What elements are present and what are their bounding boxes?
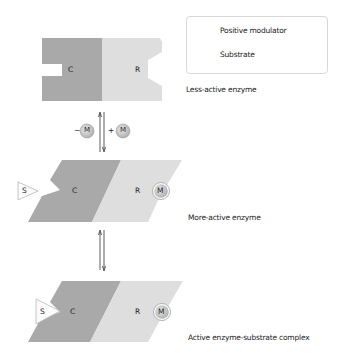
state-label-less-active: Less-active enzyme xyxy=(186,85,256,94)
equilibrium-arrows-1 xyxy=(99,112,106,152)
substrate-label-2: S xyxy=(22,186,27,195)
plus-sign: + xyxy=(108,126,114,135)
catalytic-label-3: C xyxy=(70,307,75,316)
state-label-more-active: More-active enzyme xyxy=(188,213,261,222)
substrate-label-3: S xyxy=(40,307,45,316)
free-substrate xyxy=(18,182,38,200)
equilibrium-arrows-2 xyxy=(99,230,106,271)
regulatory-label-3: R xyxy=(135,307,140,316)
legend-box xyxy=(186,16,328,74)
catalytic-label-2: C xyxy=(72,186,77,195)
modulator-label-2: M xyxy=(157,186,163,195)
minus-sign: − xyxy=(74,126,80,135)
state-label-active-complex: Active enzyme-substrate complex xyxy=(188,333,309,342)
modulator-label-3: M xyxy=(158,307,164,316)
legend-label-positive-modulator: Positive modulator xyxy=(220,26,286,35)
modulator-label-add: M xyxy=(120,126,126,134)
less-active-enzyme xyxy=(42,38,162,101)
regulatory-label-2: R xyxy=(135,186,140,195)
catalytic-label-1: C xyxy=(68,65,73,74)
legend-label-substrate: Substrate xyxy=(220,50,255,59)
modulator-label-remove: M xyxy=(84,126,90,134)
regulatory-subunit xyxy=(102,38,162,101)
regulatory-label-1: R xyxy=(135,65,140,74)
